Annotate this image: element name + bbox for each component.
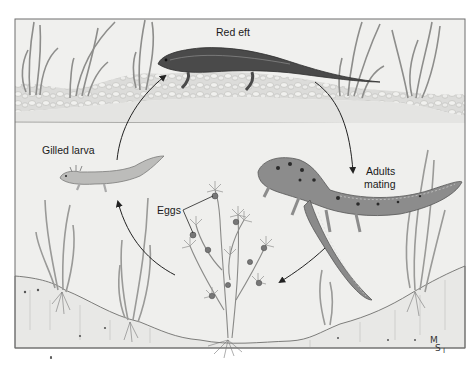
artist-signature-s: S — [435, 343, 441, 353]
label-eggs: Eggs — [157, 204, 181, 216]
label-red-eft: Red eft — [216, 26, 250, 38]
label-gilled-larva: Gilled larva — [42, 144, 95, 156]
newt-life-cycle-illustration — [0, 0, 475, 371]
artist-signature-i: I — [443, 347, 445, 355]
label-adults-mating-line1: Adults — [366, 165, 395, 177]
label-adults-mating-line2: mating — [364, 178, 396, 190]
